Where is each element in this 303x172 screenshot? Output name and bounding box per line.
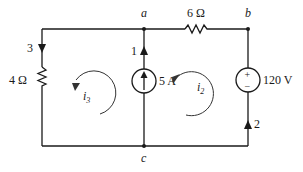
voltage-minus-sign: − [245, 81, 251, 92]
arrow-up-icon [244, 120, 252, 129]
wires [42, 29, 248, 146]
arrow-down-icon [38, 44, 46, 53]
node-a-label: a [141, 6, 147, 20]
arrow-up-icon [140, 46, 148, 55]
voltage-source-label: 120 V [263, 73, 293, 87]
mesh-arrow-i3-icon [76, 71, 116, 114]
node-a-dot [142, 27, 146, 31]
mesh-arrow-i2-icon [176, 72, 213, 116]
arrow-up-icon [141, 71, 148, 78]
mesh-current-i3-subscript: 3 [85, 96, 90, 105]
circuit-diagram: a b c 6 Ω 4 Ω 3 1 2 5 A + − 120 V i3 i2 [0, 0, 303, 172]
mesh-current-i3-label: i3 [83, 89, 90, 105]
mesh-current-i2-subscript: 2 [200, 87, 204, 96]
branch-current-left-label: 3 [27, 41, 33, 55]
resistor-4ohm-icon [38, 67, 46, 88]
node-c-label: c [141, 151, 147, 165]
node-c-dot [142, 144, 146, 148]
current-source [132, 69, 156, 93]
resistor-6ohm-label: 6 Ω [187, 6, 205, 20]
voltage-plus-sign: + [245, 69, 251, 80]
mesh-current-i2-label: i2 [197, 80, 204, 96]
branch-current-middle-label: 1 [131, 44, 137, 58]
arrow-down-icon [72, 83, 80, 91]
voltage-source: + − [236, 68, 260, 92]
node-b-dot [246, 27, 250, 31]
node-b-label: b [245, 6, 251, 20]
resistor-6ohm-icon [185, 25, 210, 33]
branch-current-right-label: 2 [254, 117, 260, 131]
resistor-4ohm-label: 4 Ω [9, 73, 27, 87]
